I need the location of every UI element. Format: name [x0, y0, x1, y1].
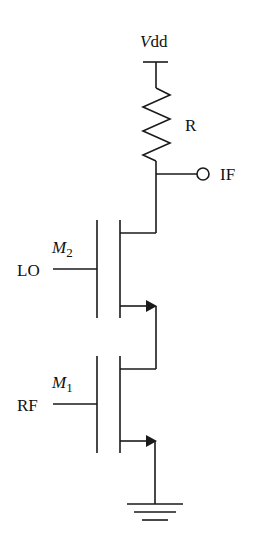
circuit-diagram: Vdd R IF LO M2 RF M1 — [0, 0, 260, 545]
transistor-m1 — [97, 356, 157, 453]
resistor-label: R — [185, 116, 197, 135]
m2-label: M2 — [51, 238, 73, 260]
vdd-label: Vdd — [140, 32, 168, 51]
lo-label: LO — [17, 261, 40, 280]
resistor-r — [143, 88, 170, 161]
m1-label: M1 — [51, 373, 73, 395]
ground-icon — [127, 504, 183, 520]
if-terminal — [197, 168, 209, 180]
rf-label: RF — [17, 396, 38, 415]
transistor-m2 — [97, 220, 157, 318]
if-label: IF — [220, 165, 235, 184]
